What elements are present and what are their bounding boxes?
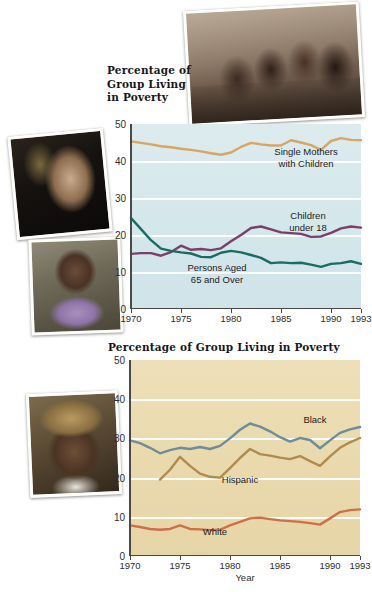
series-line-white bbox=[130, 509, 360, 530]
x-tick-label: 1975 bbox=[169, 560, 190, 571]
top-chart-x-axis bbox=[130, 308, 361, 310]
man-in-hat-photo bbox=[26, 390, 122, 498]
x-tick-mark bbox=[230, 556, 231, 560]
x-tick-label: 1970 bbox=[119, 560, 140, 571]
older-woman-photo-image bbox=[31, 240, 120, 333]
x-tick-label: 1970 bbox=[120, 313, 141, 324]
x-tick-label: 1990 bbox=[319, 560, 340, 571]
x-tick-mark bbox=[331, 309, 332, 313]
series-label-white: White bbox=[192, 526, 238, 538]
x-tick-mark bbox=[131, 309, 132, 313]
bottom-chart-y-axis bbox=[129, 360, 131, 556]
bottom-chart-x-axis-label: Year bbox=[235, 572, 254, 583]
y-tick-label: 30 bbox=[114, 433, 125, 444]
x-tick-mark bbox=[361, 309, 362, 313]
bottom-chart-series-lines bbox=[130, 360, 360, 556]
y-tick-label: 20 bbox=[114, 472, 125, 483]
y-tick-label: 20 bbox=[115, 230, 126, 241]
older-woman-photo bbox=[28, 236, 123, 335]
bottom-chart-title: Percentage of Group Living in Poverty bbox=[108, 341, 358, 354]
y-tick-label: 40 bbox=[115, 156, 126, 167]
top-chart-plot-area: 01020304050 197019751980198519901993 Sin… bbox=[131, 124, 361, 309]
x-tick-mark bbox=[231, 309, 232, 313]
x-tick-mark bbox=[180, 556, 181, 560]
young-woman-photo-image bbox=[11, 131, 110, 237]
y-tick-label: 10 bbox=[115, 267, 126, 278]
x-tick-mark bbox=[130, 556, 131, 560]
series-label-elderly: Persons Aged 65 and Over bbox=[173, 262, 261, 285]
x-tick-label: 1985 bbox=[269, 560, 290, 571]
top-chart-title: Percentage ofGroup Livingin Poverty bbox=[107, 64, 217, 105]
young-woman-photo bbox=[7, 128, 113, 241]
bottom-chart-x-axis bbox=[129, 555, 360, 557]
y-tick-label: 10 bbox=[114, 511, 125, 522]
x-tick-mark bbox=[181, 309, 182, 313]
man-in-hat-photo-image bbox=[29, 393, 119, 495]
y-tick-label: 50 bbox=[114, 355, 125, 366]
series-label-hispanic: Hispanic bbox=[210, 474, 270, 486]
top-chart-y-axis bbox=[130, 124, 132, 309]
x-tick-mark bbox=[330, 556, 331, 560]
y-tick-label: 50 bbox=[115, 119, 126, 130]
y-tick-label: 30 bbox=[115, 193, 126, 204]
x-tick-label: 1975 bbox=[170, 313, 191, 324]
x-tick-mark bbox=[281, 309, 282, 313]
y-tick-label: 40 bbox=[114, 394, 125, 405]
x-tick-label: 1980 bbox=[219, 560, 240, 571]
series-label-black: Black bbox=[293, 414, 337, 426]
series-line-black bbox=[130, 424, 360, 454]
series-label-children: Children under 18 bbox=[272, 210, 344, 233]
series-label-single-mothers: Single Mothers with Children bbox=[260, 146, 352, 169]
x-tick-mark bbox=[360, 556, 361, 560]
x-tick-mark bbox=[280, 556, 281, 560]
x-tick-label: 1993 bbox=[350, 313, 371, 324]
x-tick-label: 1993 bbox=[349, 560, 370, 571]
bottom-chart-plot-area: 01020304050 197019751980198519901993 Yea… bbox=[130, 360, 360, 556]
x-tick-label: 1985 bbox=[270, 313, 291, 324]
x-tick-label: 1980 bbox=[220, 313, 241, 324]
x-tick-label: 1990 bbox=[320, 313, 341, 324]
